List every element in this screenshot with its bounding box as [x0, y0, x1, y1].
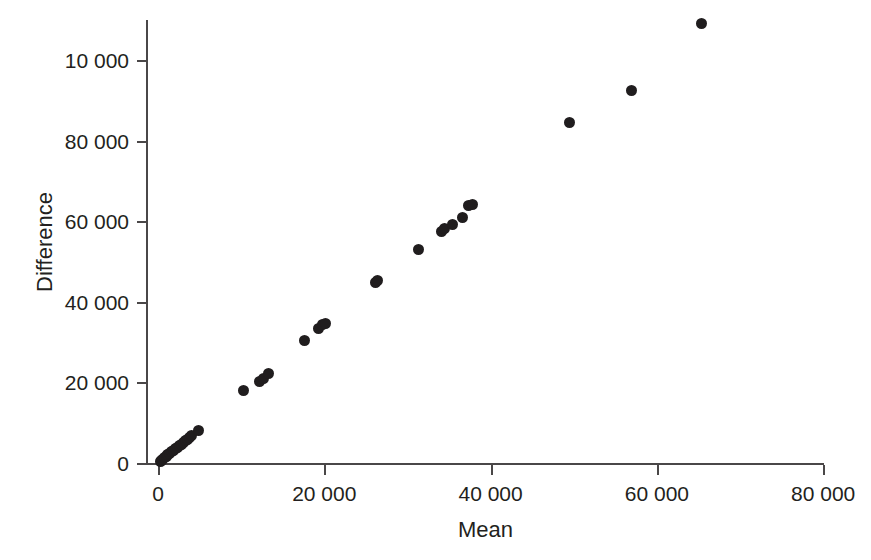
x-axis-tick-label-text: 20 000 [292, 482, 356, 505]
y-axis-title: Difference [30, 20, 60, 464]
data-point [320, 318, 331, 329]
data-point [626, 85, 637, 96]
x-axis-tick-label: 40 000 [411, 482, 571, 506]
x-axis-tick-label: 20 000 [244, 482, 404, 506]
data-point [238, 385, 249, 396]
y-axis-tick-mark [137, 60, 147, 62]
data-point [696, 18, 707, 29]
x-axis-tick-label: 0 [78, 482, 238, 506]
x-axis-tick-label: 80 000 [743, 482, 871, 506]
x-axis-tick-label-text: 80 000 [791, 482, 855, 505]
x-axis-title: Mean [147, 517, 824, 543]
y-axis-tick-label: 40 000 [0, 292, 129, 313]
y-axis-tick-label: 80 000 [0, 131, 129, 152]
x-axis-tick-mark [657, 465, 659, 475]
y-axis-tick-label-text: 80 000 [9, 131, 129, 152]
x-axis-tick-mark [324, 465, 326, 475]
bland-altman-scatter-figure: 020 00040 00060 00080 00010 000 020 0004… [0, 0, 871, 560]
y-axis-tick-mark [137, 141, 147, 143]
data-point [447, 219, 458, 230]
x-axis-tick-label: 60 000 [577, 482, 737, 506]
x-axis-tick-mark [491, 465, 493, 475]
y-axis-tick-mark [137, 463, 147, 465]
y-axis-tick-label-text: 40 000 [9, 292, 129, 313]
data-point [372, 275, 383, 286]
y-axis-tick-mark [137, 221, 147, 223]
y-axis-tick-label-text: 0 [9, 453, 129, 474]
x-axis-tick-label-text: 60 000 [625, 482, 689, 505]
data-point [413, 244, 424, 255]
data-point [193, 425, 204, 436]
data-point [467, 199, 478, 210]
data-point [457, 212, 468, 223]
y-axis-tick-label-text: 60 000 [9, 211, 129, 232]
data-point [263, 368, 274, 379]
x-axis-tick-label-text: 0 [152, 482, 164, 505]
y-axis-tick-label: 20 000 [0, 372, 129, 393]
y-axis-tick-mark [137, 302, 147, 304]
x-axis-tick-mark [823, 465, 825, 475]
plot-area [147, 20, 823, 464]
y-axis-tick-label: 60 000 [0, 211, 129, 232]
x-axis-tick-label-text: 40 000 [458, 482, 522, 505]
data-point [564, 117, 575, 128]
y-axis-tick-label-text: 10 000 [9, 50, 129, 71]
y-axis-tick-label: 10 000 [0, 50, 129, 71]
data-point [299, 335, 310, 346]
y-axis-tick-label-text: 20 000 [9, 372, 129, 393]
y-axis-tick-label: 0 [0, 453, 129, 474]
y-axis-tick-mark [137, 382, 147, 384]
